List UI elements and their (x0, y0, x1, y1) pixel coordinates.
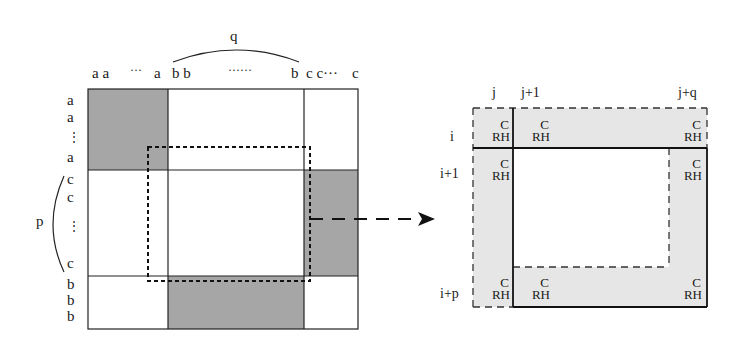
selection-dotted-box (148, 147, 310, 281)
row-label-a1: a (67, 93, 74, 108)
row-label-a2: a (67, 110, 74, 125)
col-label-aa: a a (92, 66, 109, 81)
row-label-c3: c (67, 256, 74, 271)
row-label-i: i (450, 130, 454, 144)
row-label-vdots-c: ⋮ (68, 220, 80, 232)
shaded-block-c-c (304, 170, 358, 276)
row-label-b3: b (67, 309, 75, 324)
shaded-block-b-b (168, 276, 304, 329)
col-label-dots-a: ··· (130, 64, 142, 76)
row-label-i-plus-p: i+p (440, 287, 459, 301)
row-label-i-plus-1: i+1 (440, 167, 459, 181)
col-label-j-plus-1: j+1 (521, 86, 540, 100)
row-label-b1: b (67, 277, 75, 292)
col-label-b: b (291, 66, 299, 81)
p-label: p (36, 214, 44, 229)
col-label-dots-b: ······ (228, 64, 252, 76)
q-label: q (230, 29, 238, 44)
col-label-c: c (352, 66, 359, 81)
cell-i-plus-1-j: CRH (478, 158, 510, 182)
side-brace (53, 176, 64, 272)
shaded-block-a-a (88, 89, 168, 170)
col-label-a: a (154, 66, 161, 81)
col-label-j-plus-q: j+q (678, 86, 697, 100)
row-label-b2: b (67, 293, 75, 308)
cell-i-plus-1-j-plus-q: CRH (670, 158, 702, 182)
row-label-c2: c (67, 190, 74, 205)
col-label-cc: c c··· (306, 66, 338, 81)
row-label-vdots-a: ⋮ (68, 131, 80, 143)
cell-i-j-plus-1: CRH (518, 119, 550, 143)
top-brace (173, 50, 299, 62)
row-label-a3: a (67, 150, 74, 165)
cell-i-plus-p-j-plus-q: CRH (670, 277, 702, 301)
cell-i-j-plus-q: CRH (670, 119, 702, 143)
cell-i-j: CRH (478, 119, 510, 143)
row-label-c1: c (67, 172, 74, 187)
cell-i-plus-p-j: CRH (478, 277, 510, 301)
arrow-head-icon (418, 212, 435, 226)
col-label-bb: b b (172, 66, 191, 81)
col-label-j: j (492, 86, 496, 100)
cell-i-plus-p-j-plus-1: CRH (518, 277, 550, 301)
diagram-canvas (0, 0, 744, 344)
